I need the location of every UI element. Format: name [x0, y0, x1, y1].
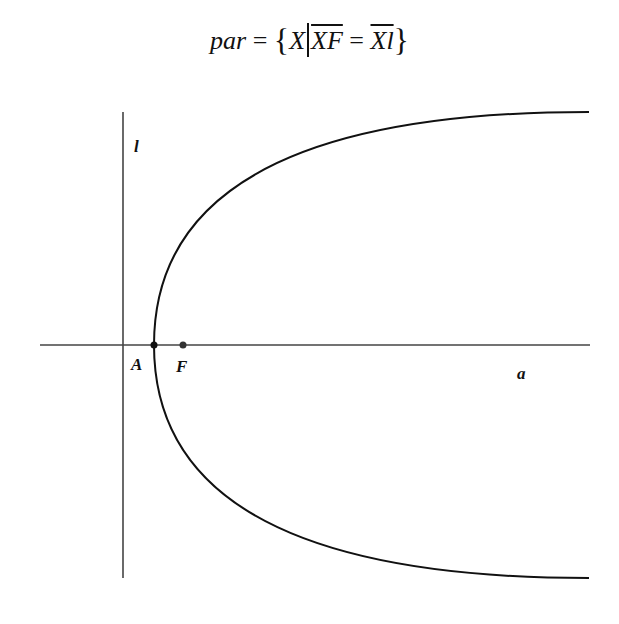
vertex-point-a [151, 342, 158, 349]
parabola-diagram: l A F a [0, 0, 619, 624]
label-f: F [175, 357, 188, 376]
label-a-vertex: A [130, 355, 142, 374]
label-l: l [134, 137, 139, 156]
focus-point-f [180, 342, 187, 349]
label-axis-a: a [517, 364, 526, 383]
